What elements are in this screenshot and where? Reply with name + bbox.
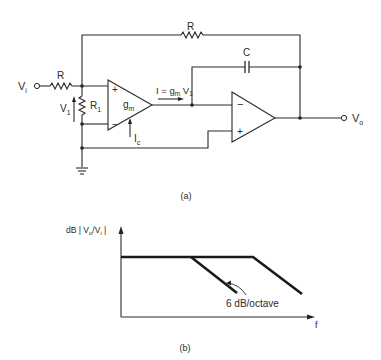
input-terminal	[34, 83, 39, 88]
feedback-resistor-label: R	[187, 21, 194, 32]
slope-annotation: 6 dB/octave	[226, 298, 279, 309]
current-equation-label: I = gm V1	[156, 85, 193, 97]
capacitor-label: C	[243, 47, 250, 58]
input-voltage-label: Vi	[18, 80, 27, 94]
input-resistor-label: R	[57, 70, 64, 81]
input-resistor	[50, 83, 72, 89]
ground-icon	[76, 168, 88, 174]
shunt-node	[80, 122, 84, 126]
shunt-resistor	[79, 96, 85, 115]
circuit-caption: (a)	[181, 191, 192, 201]
output-node	[298, 116, 302, 120]
response-curve-low	[191, 257, 237, 293]
diagram-canvas: R R C Vi Vo V1 R1 + − gm Ic I = gm V1 − …	[0, 0, 381, 360]
cap-node	[298, 65, 302, 69]
ota-plus-label: +	[112, 84, 118, 95]
x-axis-arrowhead	[307, 315, 315, 320]
x-axis-label: f	[315, 320, 318, 330]
ota-minus-label: −	[112, 119, 118, 130]
plot-caption: (b)	[180, 343, 191, 353]
v1-arrowhead	[72, 96, 76, 102]
y-axis-label: dB | Vo/Vi |	[66, 225, 106, 236]
current-arrowhead	[178, 97, 184, 101]
response-curve-high	[121, 257, 302, 294]
frequency-response-plot: 6 dB/octave dB | Vo/Vi | f (b)	[66, 225, 318, 353]
shunt-resistor-label: R1	[90, 100, 101, 113]
output-terminal	[341, 115, 346, 120]
circuit-schematic: R R C Vi Vo V1 R1 + − gm Ic I = gm V1 − …	[18, 21, 363, 201]
output-voltage-label: Vo	[352, 112, 363, 126]
feedback-resistor	[181, 32, 203, 38]
opamp-plus-label: +	[237, 126, 243, 137]
node-voltage-label: V1	[60, 103, 71, 116]
feedback-wire	[82, 35, 181, 86]
opamp-minus-label: −	[237, 98, 243, 110]
ground-wire	[82, 131, 232, 148]
control-current-label: Ic	[134, 133, 141, 146]
y-axis-arrowhead	[119, 226, 124, 234]
